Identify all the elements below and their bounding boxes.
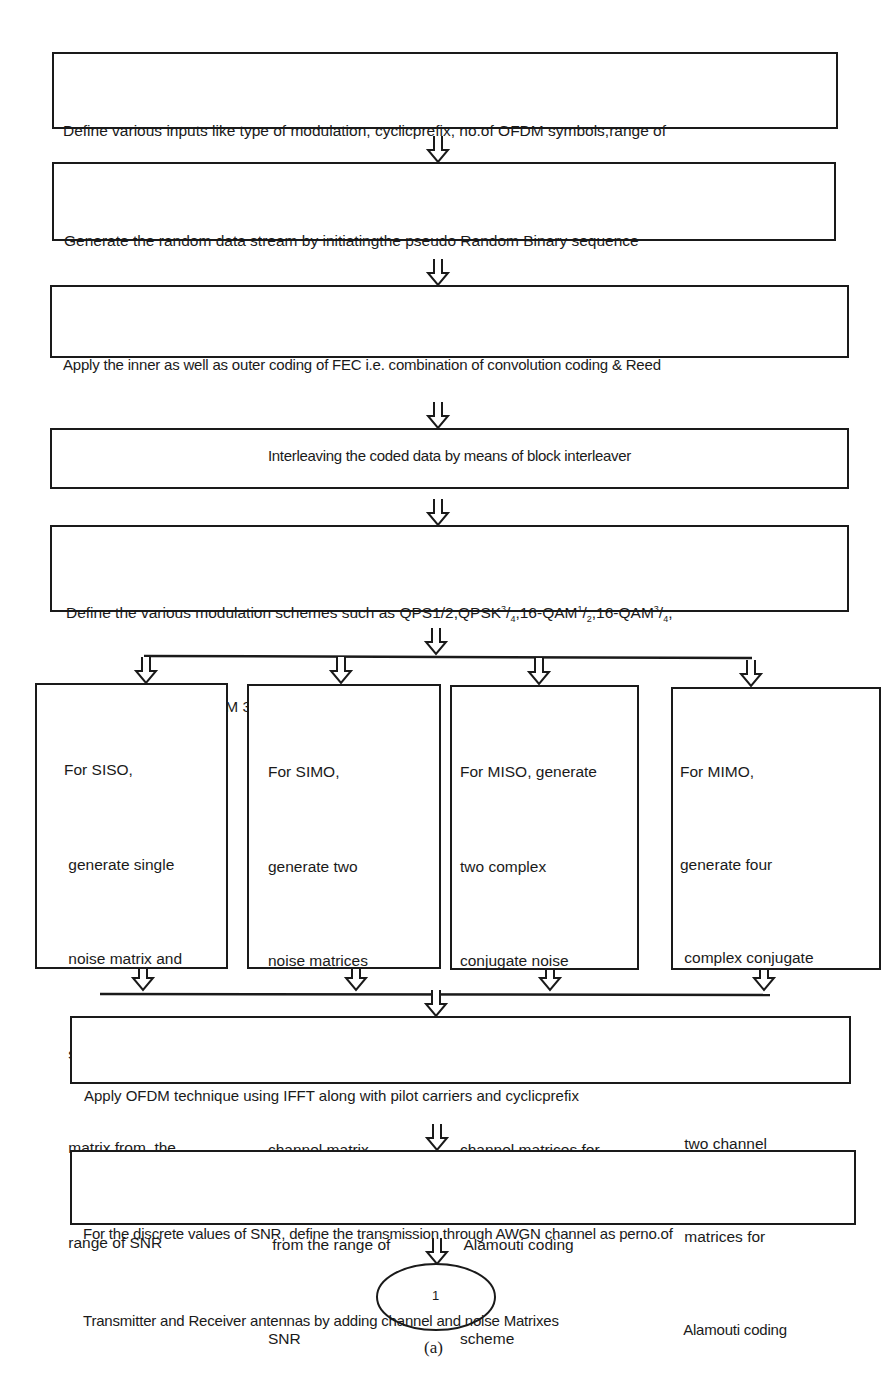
branch-text-line: matrices for bbox=[680, 1221, 819, 1252]
step-modulation-box: Define the various modulation schemes su… bbox=[50, 525, 849, 612]
branch-simo-box: For SIMO, generate two noise matrices an… bbox=[247, 684, 441, 969]
branch-siso-box: For SISO, generate single noise matrix a… bbox=[35, 683, 228, 969]
step-random-data-box: Generate the random data stream by initi… bbox=[52, 162, 836, 241]
branch-text-line: Alamouti coding bbox=[680, 1314, 819, 1345]
step-awgn-box: For the discrete values of SNR, define t… bbox=[70, 1150, 856, 1225]
branch-text-line: For MIMO, bbox=[680, 756, 819, 787]
branch-text-line: two complex bbox=[460, 851, 600, 883]
arrow-down-icon bbox=[741, 660, 761, 686]
step-text-line: Generate the random data stream by initi… bbox=[64, 227, 639, 254]
branch-mimo-box: For MIMO, generate four complex conjugat… bbox=[671, 687, 881, 970]
step-text-line: Define various inputs like type of modul… bbox=[63, 117, 666, 144]
branch-text-line: conjugate noise bbox=[460, 945, 600, 977]
connector-node-label: 1 bbox=[432, 1288, 439, 1303]
step-ofdm-box: Apply OFDM technique using IFFT along wi… bbox=[70, 1016, 851, 1084]
step-fec-coding-box: Apply the inner as well as outer coding … bbox=[50, 285, 849, 358]
step-text-line: Apply OFDM technique using IFFT along wi… bbox=[84, 1082, 579, 1109]
step-text-line: Define the various modulation schemes su… bbox=[66, 595, 672, 634]
branch-text-line: For SISO, bbox=[64, 754, 182, 786]
figure-caption: (a) bbox=[424, 1338, 443, 1358]
branch-miso-box: For MISO, generate two complex conjugate… bbox=[450, 685, 639, 970]
step-text-line: For the discrete values of SNR, define t… bbox=[83, 1219, 673, 1248]
branch-text-line: generate four bbox=[680, 849, 819, 880]
step-text-line: Apply the inner as well as outer coding … bbox=[63, 351, 661, 379]
branch-text-line: generate two bbox=[268, 851, 390, 883]
step-inputs-box: Define various inputs like type of modul… bbox=[52, 52, 838, 129]
branch-text-line: For SIMO, bbox=[268, 756, 390, 788]
branch-text-line: noise matrices bbox=[268, 945, 390, 977]
branch-text-line: generate single bbox=[64, 849, 182, 881]
step-interleaving-box: Interleaving the coded data by means of … bbox=[50, 428, 849, 489]
branch-text-line: noise matrix and bbox=[64, 943, 182, 975]
step-text-line: Transmitter and Receiver antennas by add… bbox=[83, 1306, 673, 1335]
branch-text-line: For MISO, generate bbox=[460, 756, 600, 788]
branch-text-line: complex conjugate bbox=[680, 942, 819, 973]
step-text-line: Interleaving the coded data by means of … bbox=[52, 447, 847, 464]
